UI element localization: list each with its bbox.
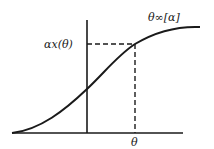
x-marker-label: θ (131, 136, 138, 149)
curve-label: θ∞[α] (148, 11, 181, 24)
y-marker-label: αx(θ) (44, 38, 73, 51)
diagram-canvas: θ∞[α] αx(θ) θ (0, 0, 214, 149)
sigmoid-curve (12, 27, 200, 133)
